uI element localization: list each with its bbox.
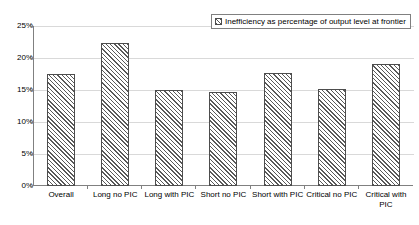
bar-slot (251, 26, 305, 186)
bar (318, 89, 346, 186)
y-tick-label: 15% (3, 86, 33, 94)
bar-slot (359, 26, 413, 186)
x-tick-label: Critical with PIC (359, 190, 413, 210)
x-tick-label: Long with PIC (142, 190, 196, 210)
chart-legend: Inefficiency as percentage of output lev… (211, 14, 411, 29)
bar-slot (142, 26, 196, 186)
y-tick-label: 0% (3, 182, 33, 190)
y-tick-label: 10% (3, 118, 33, 126)
bar-slot (34, 26, 88, 186)
y-tick-label: 25% (3, 22, 33, 30)
x-tick-label: Critical no PIC (305, 190, 359, 210)
hatched-square-icon (215, 18, 222, 25)
y-axis: 0%5%10%15%20%25% (0, 26, 33, 186)
x-tick-label: Overall (34, 190, 88, 210)
x-tick-label: Short with PIC (251, 190, 305, 210)
bar (209, 92, 237, 186)
bar-series (34, 26, 413, 186)
x-tick-label: Long no PIC (88, 190, 142, 210)
bar-slot (196, 26, 250, 186)
x-tick-label: Short no PIC (196, 190, 250, 210)
bar-slot (305, 26, 359, 186)
bar-slot (88, 26, 142, 186)
bar (47, 74, 75, 186)
bar (372, 64, 400, 186)
bar (155, 90, 183, 186)
y-tick-label: 5% (3, 150, 33, 158)
x-axis-labels: OverallLong no PICLong with PICShort no … (34, 190, 413, 210)
bar (101, 43, 129, 186)
y-tick-mark (30, 186, 33, 187)
bar-chart: 0%5%10%15%20%25% OverallLong no PICLong … (0, 0, 419, 225)
bar (264, 73, 292, 186)
legend-entry-label: Inefficiency as percentage of output lev… (225, 17, 406, 26)
y-tick-label: 20% (3, 54, 33, 62)
